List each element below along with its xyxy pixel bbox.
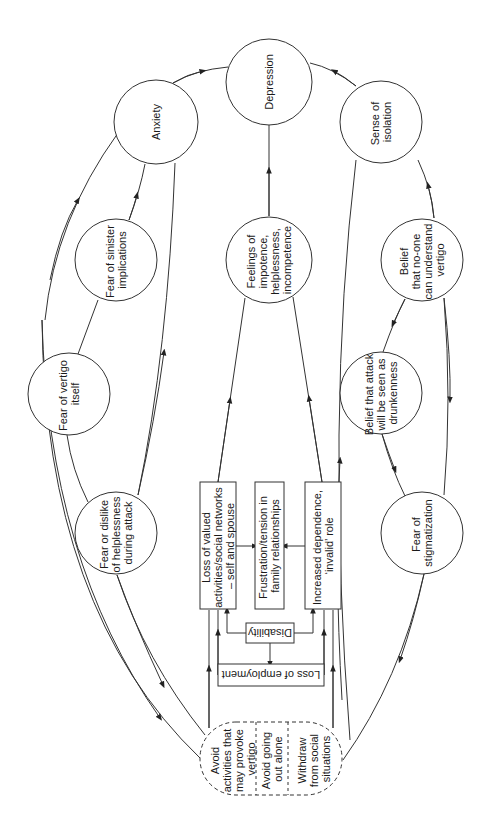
label-line: helplessness,: [269, 228, 281, 295]
node-feelings-of-impotence: Feelings of impotence, helplessness, inc…: [226, 217, 312, 303]
label-line: activities that: [221, 729, 233, 793]
svg-text:Fear or dislike of helpl: Fear or dislike of helplessness during a…: [98, 494, 134, 573]
box-loss-of-employment: Loss of employment: [218, 664, 324, 686]
edge-isolation-depression: [310, 63, 356, 86]
label-line: vertigo: [434, 243, 446, 276]
svg-text:Loss of employment: Loss of employment: [222, 669, 320, 681]
avoid-alone-label: Avoid going out alone: [260, 729, 284, 789]
svg-text:Sense of isolation: Sense of isolation: [369, 99, 393, 145]
label-anxiety: Anxiety: [150, 103, 162, 140]
label-line: ‘invalid’ role: [323, 517, 335, 574]
edge-stigmatization-withdraw: [343, 574, 424, 760]
label-line: Withdraw: [296, 738, 308, 784]
label-line: family relationships: [269, 499, 281, 593]
withdraw-label: Withdraw from social situations: [296, 731, 332, 787]
label-line: Fear of sinister: [104, 225, 116, 298]
node-fear-of-sinister-implications: Fear of sinister implications: [75, 219, 157, 301]
label-line: that no-one: [410, 234, 422, 290]
label-line: may provoke: [233, 729, 245, 792]
label-line: Loss of valued: [200, 512, 212, 583]
svg-text:Depression: Depression: [263, 54, 275, 110]
label-line: incompetence: [281, 226, 293, 295]
node-belief-attack-drunkenness: Belief that attack will be seen as drunk…: [340, 351, 422, 435]
vertigo-psychological-diagram: Depression Anxiety Sense of isolation Fe…: [0, 0, 485, 818]
label-line: isolation: [381, 102, 393, 142]
label-line: vertigo: [245, 742, 257, 775]
label-line: impotence,: [257, 235, 269, 289]
edge-helplessness-anxiety: [138, 163, 175, 495]
label-line: implications: [116, 231, 128, 289]
label-line: can understand: [422, 224, 434, 300]
label-line: Loss of employment: [222, 669, 320, 681]
label-line: Disability: [247, 627, 292, 639]
node-fear-of-stigmatization: Fear of stigmatization: [381, 492, 463, 574]
node-sense-of-isolation: Sense of isolation: [340, 81, 422, 163]
label-line: Feelings of: [245, 234, 257, 289]
label-line: Fear or dislike: [98, 500, 110, 569]
label-line: – self and spouse: [224, 503, 236, 589]
edge-disability-dependence: [294, 610, 313, 633]
edge-noone-isolation: [418, 160, 434, 218]
label-line: stigmatization: [422, 499, 434, 566]
label-depression: Depression: [263, 54, 275, 110]
node-fear-helplessness-during-attack: Fear or dislike of helplessness during a…: [75, 492, 157, 574]
node-anxiety: Anxiety: [114, 80, 198, 164]
label-line: during attack: [122, 501, 134, 564]
edge-vertigo-sinister: [78, 300, 98, 354]
box-frustration-family: Frustration/tension in family relationsh…: [255, 482, 284, 609]
node-fear-of-vertigo-itself: Fear of vertigo itself: [28, 353, 110, 435]
label-line: situations: [320, 735, 332, 782]
edge-withdraw-isolation: [339, 160, 356, 740]
svg-text:Anxiety: Anxiety: [150, 103, 162, 140]
edge-anxiety-depression: [173, 67, 228, 83]
label-line: out alone: [272, 736, 284, 781]
edge-noone-drunkenness: [383, 299, 405, 352]
label-line: itself: [69, 382, 81, 406]
label-line: Increased dependence,: [311, 490, 323, 605]
label-line: Fear of vertigo: [57, 360, 69, 431]
label-line: of helplessness: [110, 496, 122, 572]
svg-text:Feelings of impotence,: Feelings of impotence, helplessness, inc…: [245, 225, 293, 295]
node-depression: Depression: [226, 39, 312, 125]
box-disability: Disability: [246, 623, 294, 643]
node-belief-no-one-understands: Belief that no-one can understand vertig…: [381, 219, 463, 301]
edge-helplessness-avoid: [117, 575, 205, 735]
label-line: Frustration/tension in: [257, 496, 269, 599]
label-line: activities/social networks: [212, 487, 224, 608]
svg-text:Frustration/tension in f: Frustration/tension in family relationsh…: [257, 493, 281, 599]
label-line: will be seen as: [375, 358, 387, 432]
box-loss-of-valued-activities: Loss of valued activities/social network…: [200, 482, 236, 609]
label-line: Sense of: [369, 101, 381, 145]
label-line: drunkenness: [387, 361, 399, 424]
label-line: from social: [308, 734, 320, 787]
svg-text:Belief that attack will: Belief that attack will be seen as drunk…: [363, 351, 399, 435]
label-line: Belief: [398, 247, 410, 275]
label-line: Avoid going: [260, 732, 272, 789]
label-line: Belief that attack: [363, 353, 375, 435]
edge-disability-lossvalued: [227, 610, 246, 633]
box-increased-dependence: Increased dependence, ‘invalid’ role: [305, 482, 341, 609]
edge-helplessness-vertigo: [67, 435, 88, 502]
svg-text:Fear of sinister implica: Fear of sinister implications: [104, 222, 128, 298]
svg-text:Disability: Disability: [247, 627, 292, 639]
label-line: Fear of: [410, 516, 422, 552]
label-line: Avoid: [209, 747, 221, 774]
avoidance-behaviours-group: Avoid activities that may provoke vertig…: [200, 722, 342, 795]
